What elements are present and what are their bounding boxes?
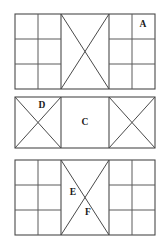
top-panel: A [15,14,155,89]
label-c: C [82,117,89,127]
label-d: D [39,100,46,110]
bay-diagram-canvas: A D C [0,0,164,247]
label-e: E [70,187,76,197]
middle-panel: D C [15,97,155,148]
label-a: A [140,19,147,29]
diagram-figure: A D C [0,0,164,247]
label-f: F [85,207,91,217]
bottom-panel: E F [15,160,155,235]
